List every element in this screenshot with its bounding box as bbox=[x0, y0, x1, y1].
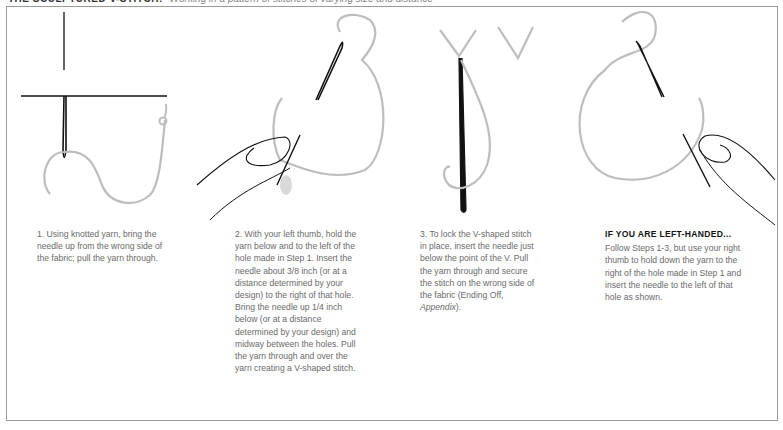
left-handed-section: IF YOU ARE LEFT-HANDED... Follow Steps 1… bbox=[605, 228, 745, 303]
left-handed-text: Follow Steps 1-3, but use your right thu… bbox=[605, 242, 745, 303]
appendix-reference: Appendix bbox=[420, 302, 456, 312]
left-handed-heading: IF YOU ARE LEFT-HANDED... bbox=[605, 228, 745, 240]
needle-icon bbox=[63, 96, 66, 158]
needle-icon bbox=[316, 42, 343, 100]
step-2-text: 2. With your left thumb, hold the yarn b… bbox=[235, 228, 363, 374]
step-3-text: 3. To lock the V-shaped stitch in place,… bbox=[420, 228, 540, 313]
illustrations bbox=[0, 0, 783, 430]
yarn-icon bbox=[44, 120, 165, 203]
thumb-icon bbox=[197, 137, 290, 185]
v-stitch-icon bbox=[498, 27, 533, 58]
step-3-end: ). bbox=[456, 302, 461, 312]
step-3-illustration bbox=[440, 27, 533, 213]
step-1-text: 1. Using knotted yarn, bring the needle … bbox=[37, 228, 167, 265]
needle-icon bbox=[636, 41, 664, 97]
step-3-main: 3. To lock the V-shaped stitch in place,… bbox=[420, 229, 534, 300]
v-stitch-icon bbox=[440, 30, 476, 56]
yarn-icon bbox=[273, 15, 383, 175]
left-handed-illustration bbox=[580, 12, 775, 225]
thumb-icon bbox=[699, 135, 775, 180]
step-1-illustration bbox=[21, 12, 167, 203]
step-2-illustration bbox=[197, 15, 383, 220]
yarn-icon bbox=[580, 12, 704, 180]
yarn-icon bbox=[444, 60, 490, 188]
